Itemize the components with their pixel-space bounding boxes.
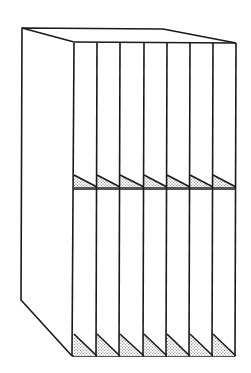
shelving-unit-drawing bbox=[0, 0, 251, 373]
top-back-edge bbox=[163, 29, 236, 43]
divider-line bbox=[119, 43, 120, 356]
divider-line bbox=[96, 43, 97, 356]
divider-line bbox=[189, 43, 190, 356]
divider-line bbox=[212, 43, 213, 356]
divider-line bbox=[235, 43, 236, 356]
divider-line bbox=[166, 43, 167, 356]
divider-line bbox=[143, 43, 144, 356]
divider-line bbox=[72, 43, 74, 356]
side-panel-edge bbox=[21, 28, 163, 356]
top-left-edge bbox=[22, 28, 74, 42]
front-top-edge bbox=[74, 42, 236, 43]
unit-outline bbox=[21, 28, 236, 356]
vertical-dividers bbox=[72, 43, 236, 356]
